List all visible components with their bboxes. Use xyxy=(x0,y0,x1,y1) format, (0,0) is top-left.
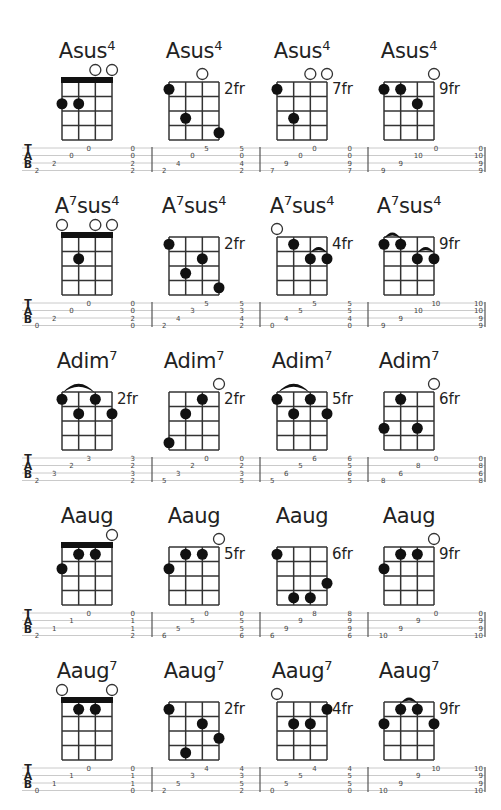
chord-superscript: 7 xyxy=(109,658,117,673)
tab-chord-note: 7 xyxy=(348,167,352,175)
finger-dot-icon xyxy=(305,394,316,405)
finger-dot-icon xyxy=(73,549,84,560)
finger-dot-icon xyxy=(412,704,423,715)
fretboard-grid xyxy=(384,702,434,760)
fretboard-grid xyxy=(384,82,434,140)
chord-row-1: Asus4Asus42frAsus47frAsus49frTAB00002222… xyxy=(0,38,501,188)
tab-arpeggio-note: 1 xyxy=(69,617,73,625)
chord-extension: 7 xyxy=(391,193,399,208)
open-string-icon xyxy=(107,530,118,541)
tab-arpeggio-note: 0 xyxy=(69,152,73,160)
chord-superscript: 4 xyxy=(433,193,441,208)
fretboard-grid xyxy=(277,237,327,295)
tab-arpeggio-note: 5 xyxy=(176,780,180,788)
tab-chord-note: 9 xyxy=(479,167,483,175)
fretboard-grid xyxy=(62,237,112,295)
finger-dot-icon xyxy=(57,563,68,574)
tab-arpeggio-note: 2 xyxy=(52,315,56,323)
chord-superscript: 4 xyxy=(326,193,334,208)
open-string-icon xyxy=(90,65,101,76)
finger-dot-icon xyxy=(395,704,406,715)
tab-arpeggio-note: 2 xyxy=(52,160,56,168)
chord-superscript: 4 xyxy=(107,38,115,53)
finger-dot-icon xyxy=(395,84,406,95)
tab-arpeggio-note: 9 xyxy=(284,625,288,633)
finger-dot-icon xyxy=(180,408,191,419)
tab-arpeggio-note: 1 xyxy=(52,780,56,788)
tab-arpeggio-note: 0 xyxy=(86,300,90,308)
finger-dot-icon xyxy=(288,113,299,124)
chord-superscript: 4 xyxy=(218,193,226,208)
finger-dot-icon xyxy=(395,239,406,250)
finger-dot-icon xyxy=(164,239,175,250)
tab-arpeggio-note: 8 xyxy=(312,610,316,618)
tab-arpeggio-note: 4 xyxy=(312,765,317,773)
fretboard-grid xyxy=(384,392,434,450)
tab-arpeggio-note: 8 xyxy=(416,462,420,470)
finger-dot-icon xyxy=(73,408,84,419)
tab-chord-note: 2 xyxy=(131,167,135,175)
tab-chord-note: 2 xyxy=(131,477,135,485)
fretboard-grid xyxy=(384,237,434,295)
tab-chord-note: 0 xyxy=(348,322,352,330)
finger-dot-icon xyxy=(305,592,316,603)
finger-dot-icon xyxy=(379,239,390,250)
finger-dot-icon xyxy=(288,408,299,419)
chord-row-4: AaugAaug5frAaug6frAaug9frTAB001111220055… xyxy=(0,503,501,653)
tab-chord-note: 6 xyxy=(240,632,245,640)
finger-dot-icon xyxy=(90,549,101,560)
tab-arpeggio-note: 5 xyxy=(162,477,166,485)
finger-dot-icon xyxy=(305,253,316,264)
tab-arpeggio-note: 0 xyxy=(434,145,438,153)
chord-superscript: 7 xyxy=(216,658,224,673)
fret-position-label: 5fr xyxy=(224,545,246,563)
chord-extension: 7 xyxy=(176,193,184,208)
tab-arpeggio-note: 6 xyxy=(399,470,404,478)
open-string-icon xyxy=(107,220,118,231)
tab-chord-note: 2 xyxy=(240,167,244,175)
fretboard-grid xyxy=(169,237,219,295)
finger-dot-icon xyxy=(429,253,440,264)
open-string-icon xyxy=(429,534,440,545)
fret-position-label: 5fr xyxy=(332,390,354,408)
finger-dot-icon xyxy=(379,718,390,729)
tab-arpeggio-note: 0 xyxy=(312,145,316,153)
tab-arpeggio-note: 0 xyxy=(204,610,208,618)
finger-dot-icon xyxy=(305,718,316,729)
open-string-icon xyxy=(305,69,316,80)
finger-dot-icon xyxy=(322,253,333,264)
finger-dot-icon xyxy=(57,98,68,109)
tab-chord-note: 10 xyxy=(474,787,483,795)
tab-chord-note: 0 xyxy=(348,787,352,795)
finger-dot-icon xyxy=(429,718,440,729)
tab-arpeggio-note: 8 xyxy=(381,477,385,485)
tab-arpeggio-note: 5 xyxy=(204,300,208,308)
tab-arpeggio-note: 7 xyxy=(270,167,274,175)
tab-arpeggio-note: 2 xyxy=(190,462,194,470)
fret-position-label: 9fr xyxy=(439,80,461,98)
nut-bar xyxy=(61,542,113,548)
chord-extension: 7 xyxy=(284,193,292,208)
finger-dot-icon xyxy=(164,437,175,448)
tab-arpeggio-note: 2 xyxy=(162,322,166,330)
fretboard-grid xyxy=(169,392,219,450)
tab-arpeggio-note: 6 xyxy=(284,470,289,478)
tab-arpeggio-note: 0 xyxy=(86,765,90,773)
fret-position-label: 2fr xyxy=(117,390,139,408)
finger-dot-icon xyxy=(57,394,68,405)
open-string-icon xyxy=(429,69,440,80)
tab-arpeggio-note: 9 xyxy=(399,625,403,633)
tab-staff: TAB000022005533442255554400101010109999 xyxy=(0,297,501,337)
finger-dot-icon xyxy=(197,253,208,264)
finger-dot-icon xyxy=(90,394,101,405)
tab-chord-note: 2 xyxy=(131,632,135,640)
finger-dot-icon xyxy=(214,282,225,293)
chord-superscript: 4 xyxy=(214,38,222,53)
tab-clef-letter: B xyxy=(24,623,32,636)
tab-arpeggio-note: 2 xyxy=(69,462,73,470)
open-string-icon xyxy=(107,65,118,76)
finger-dot-icon xyxy=(395,549,406,560)
tab-arpeggio-note: 5 xyxy=(270,477,274,485)
tab-arpeggio-note: 5 xyxy=(312,300,316,308)
tab-chord-note: 2 xyxy=(240,322,244,330)
